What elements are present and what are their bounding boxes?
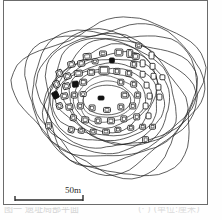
- house-foundation: [150, 63, 155, 69]
- house-foundation: [52, 80, 60, 89]
- structure-outline: [128, 125, 134, 130]
- structure-outline: [99, 51, 106, 56]
- structure-outline: [71, 92, 77, 98]
- structure-outline: [83, 53, 91, 60]
- structure-outline: [150, 63, 155, 69]
- structure-outline: [92, 59, 98, 64]
- house-foundation: [121, 92, 128, 98]
- house-foundation: [55, 69, 63, 78]
- structure-outline: [60, 93, 68, 100]
- figure-caption: 图一 遗址局部平面 (· ) (单位:厘米): [0, 207, 222, 220]
- structure-outline: [88, 69, 95, 75]
- structure-outline: [132, 53, 139, 59]
- site-plan-map: [4, 1, 207, 204]
- structure-outline: [115, 127, 121, 132]
- structure-outline: [77, 103, 83, 109]
- house-foundation: [63, 72, 71, 80]
- house-foundation: [109, 58, 114, 63]
- house-foundation: [78, 128, 85, 134]
- structure-outline: [77, 60, 85, 67]
- house-foundation: [151, 73, 156, 79]
- house-foundation: [70, 114, 77, 121]
- house-foundation: [104, 107, 111, 112]
- structure-outline: [151, 73, 156, 79]
- structure-outline: [121, 116, 127, 122]
- house-foundation: [157, 94, 162, 100]
- structure-outline: [81, 117, 88, 124]
- caption-text-right: (· ) (单位:厘米): [138, 207, 200, 214]
- house-foundation: [118, 104, 124, 110]
- house-foundation: [66, 104, 74, 111]
- house-foundation: [128, 125, 134, 130]
- house-foundation: [156, 84, 161, 90]
- house-foundation: [114, 68, 120, 74]
- structure-outline: [107, 118, 114, 124]
- structure-outline: [68, 126, 75, 133]
- structure-outline: [135, 92, 141, 98]
- house-foundation: [140, 60, 145, 67]
- structure-outline: [157, 94, 162, 100]
- structure-outline: [51, 91, 59, 100]
- house-foundation: [143, 137, 149, 143]
- structure-outline: [80, 92, 86, 97]
- house-foundation: [132, 53, 139, 59]
- structure-outline: [62, 82, 70, 90]
- house-foundation: [98, 96, 104, 100]
- structure-outline: [135, 43, 142, 49]
- house-foundation: [71, 92, 77, 98]
- structure-outline: [72, 81, 78, 87]
- structure-outline: [149, 52, 154, 59]
- house-foundation: [115, 49, 123, 56]
- structure-outline: [140, 60, 145, 67]
- house-foundation: [131, 81, 137, 87]
- structure-outline: [67, 61, 75, 68]
- house-foundation: [67, 61, 75, 68]
- plate-frame: 50m: [3, 0, 208, 205]
- structure-outline: [66, 104, 74, 111]
- house-foundation: [150, 124, 156, 129]
- structure-outline: [143, 103, 148, 109]
- house-foundation: [107, 118, 114, 124]
- house-foundation: [74, 70, 82, 77]
- structure-outline: [80, 79, 87, 85]
- house-foundation: [126, 70, 132, 76]
- structure-outline: [95, 118, 101, 124]
- house-foundation: [131, 61, 137, 67]
- house-foundation: [60, 93, 68, 100]
- structure-outline: [131, 61, 137, 67]
- structure-outline: [63, 72, 71, 80]
- structure-outline: [114, 68, 120, 74]
- house-foundation: [135, 92, 141, 98]
- structure-outline: [103, 129, 110, 134]
- house-foundation: [121, 116, 127, 122]
- structure-outline: [78, 128, 85, 134]
- house-foundation: [80, 92, 86, 97]
- house-foundation: [134, 114, 140, 120]
- house-foundation: [146, 113, 151, 119]
- house-foundation: [99, 66, 109, 74]
- structure-outline: [144, 82, 149, 88]
- house-foundation: [77, 103, 83, 109]
- structure-outline: [74, 70, 82, 77]
- structure-outline: [126, 70, 132, 76]
- structure-outline: [55, 69, 63, 78]
- figure-container: 50m 图一 遗址局部平面 (· ) (单位:厘米): [0, 0, 222, 220]
- house-foundation: [62, 82, 70, 90]
- house-foundation: [80, 79, 87, 85]
- structure-outline: [143, 137, 149, 143]
- structure-outline: [52, 80, 60, 89]
- structure-outline: [90, 129, 96, 134]
- structure-outline: [104, 107, 111, 112]
- structure-outline: [121, 92, 128, 98]
- house-foundation: [140, 124, 146, 129]
- scale-bar: 50m: [13, 187, 91, 205]
- structure-outline: [146, 113, 151, 119]
- house-foundation: [56, 102, 63, 109]
- structure-outline: [160, 75, 165, 80]
- structure-outline: [109, 58, 114, 63]
- house-foundation: [95, 118, 101, 124]
- structure-outline: [150, 124, 156, 129]
- house-foundation: [160, 75, 165, 80]
- house-foundation: [81, 117, 88, 124]
- house-foundation: [140, 71, 145, 77]
